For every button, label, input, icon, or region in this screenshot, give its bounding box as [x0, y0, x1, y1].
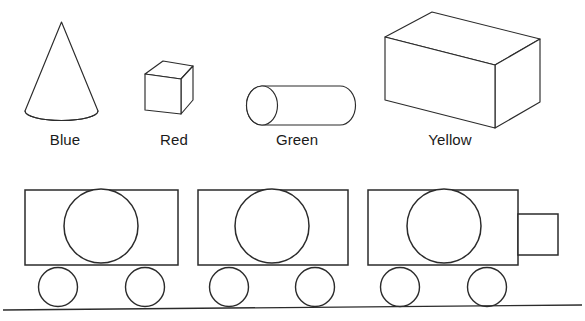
cone-shape: [25, 22, 98, 121]
shapes-and-train-diagram: Blue Red Green Yellow: [0, 0, 585, 321]
ground-line: [3, 305, 582, 310]
shape-label-cylinder: Green: [266, 131, 328, 149]
train-car-3: [368, 189, 558, 307]
diagram-canvas: [0, 0, 585, 321]
shape-label-box: Yellow: [418, 131, 482, 149]
shape-label-cube: Red: [150, 131, 198, 149]
cylinder-shape: [246, 86, 355, 125]
shape-label-cone: Blue: [38, 131, 92, 149]
train-car-1: [25, 189, 178, 307]
train-coupler: [518, 214, 558, 255]
train-car-2: [198, 189, 348, 307]
rectangular-prism-shape: [385, 12, 540, 128]
cube-shape: [145, 61, 193, 114]
train-group: [3, 189, 582, 310]
